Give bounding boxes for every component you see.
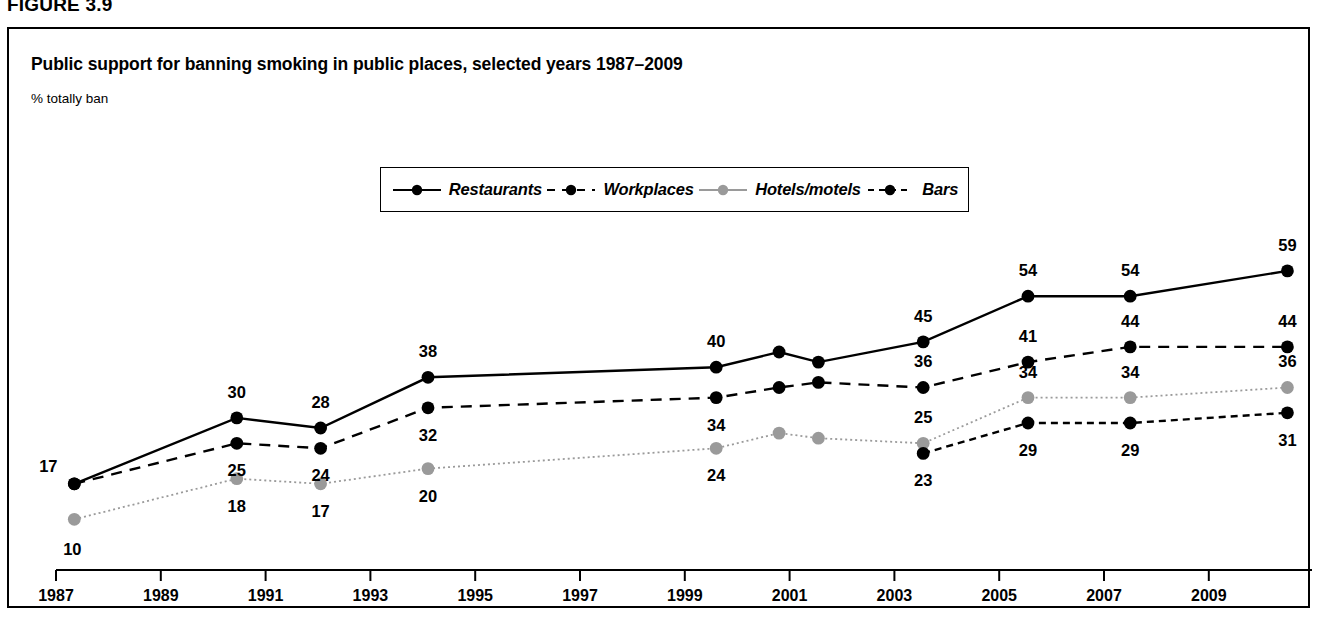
data-point xyxy=(68,477,81,490)
data-point xyxy=(773,381,786,394)
data-point xyxy=(812,432,825,445)
series-line-restaurants xyxy=(74,271,1287,484)
data-label: 17 xyxy=(39,456,57,475)
y-axis-note: % totally ban xyxy=(31,91,108,106)
data-label: 41 xyxy=(1019,327,1037,346)
data-point xyxy=(422,462,435,475)
x-tick-label-2009: 2009 xyxy=(1191,587,1227,605)
series-line-hotels-motels xyxy=(74,388,1287,520)
data-point xyxy=(422,401,435,414)
legend-label-hotels-motels: Hotels/motels xyxy=(755,180,861,199)
data-label: 20 xyxy=(419,486,437,505)
data-point xyxy=(812,356,825,369)
data-label: 24 xyxy=(707,466,725,485)
data-point xyxy=(710,442,723,455)
data-point xyxy=(1281,381,1294,394)
legend-item-workplaces: Workplaces xyxy=(545,180,693,199)
data-point xyxy=(1281,265,1294,278)
legend-item-hotels-motels: Hotels/motels xyxy=(697,180,861,199)
data-point xyxy=(1124,391,1137,404)
data-point xyxy=(1022,290,1035,303)
data-point xyxy=(230,437,243,450)
x-tick-label-1987: 1987 xyxy=(38,587,74,605)
data-point xyxy=(314,422,327,435)
data-label: 44 xyxy=(1278,311,1296,330)
data-point xyxy=(710,391,723,404)
chart-plot-area xyxy=(9,29,1312,610)
data-point xyxy=(917,437,930,450)
x-tick-label-1989: 1989 xyxy=(143,587,179,605)
data-label: 54 xyxy=(1121,261,1139,280)
data-point xyxy=(917,336,930,349)
x-tick-label-1993: 1993 xyxy=(353,587,389,605)
legend-item-restaurants: Restaurants xyxy=(391,180,542,199)
data-label: 36 xyxy=(914,352,932,371)
legend-label-workplaces: Workplaces xyxy=(603,180,693,199)
x-tick-label-1991: 1991 xyxy=(248,587,284,605)
data-point xyxy=(917,381,930,394)
x-tick-label-1995: 1995 xyxy=(457,587,493,605)
data-label: 25 xyxy=(228,461,246,480)
data-point xyxy=(314,442,327,455)
data-label: 32 xyxy=(419,425,437,444)
data-point xyxy=(773,427,786,440)
data-point xyxy=(917,447,930,460)
legend-label-bars: Bars xyxy=(922,180,958,199)
x-tick-label-1997: 1997 xyxy=(562,587,598,605)
data-point xyxy=(1281,406,1294,419)
series-line-workplaces xyxy=(74,347,1287,484)
data-point xyxy=(1124,341,1137,354)
data-label: 34 xyxy=(1121,362,1139,381)
data-label: 23 xyxy=(914,471,932,490)
data-point xyxy=(68,477,81,490)
data-point xyxy=(1124,417,1137,430)
x-tick-label-2005: 2005 xyxy=(981,587,1017,605)
data-label: 34 xyxy=(707,415,725,434)
data-label: 59 xyxy=(1278,235,1296,254)
data-label: 31 xyxy=(1278,430,1296,449)
data-label: 10 xyxy=(63,540,81,559)
data-label: 44 xyxy=(1121,311,1139,330)
data-label: 40 xyxy=(707,332,725,351)
x-tick-label-2003: 2003 xyxy=(877,587,913,605)
data-label: 18 xyxy=(228,496,246,515)
data-label: 24 xyxy=(311,466,329,485)
data-label: 29 xyxy=(1121,440,1139,459)
data-label: 17 xyxy=(311,501,329,520)
data-label: 29 xyxy=(1019,440,1037,459)
chart-panel: Public support for banning smoking in pu… xyxy=(7,27,1310,608)
legend-swatch-workplaces xyxy=(545,183,597,197)
data-label: 45 xyxy=(914,306,932,325)
chart-title: Public support for banning smoking in pu… xyxy=(31,54,683,75)
data-label: 30 xyxy=(228,382,246,401)
data-point xyxy=(422,371,435,384)
data-point xyxy=(710,361,723,374)
data-label: 38 xyxy=(419,342,437,361)
legend-swatch-hotels-motels xyxy=(697,183,749,197)
data-point xyxy=(1022,417,1035,430)
data-label: 54 xyxy=(1019,261,1037,280)
data-label: 28 xyxy=(311,393,329,412)
chart-legend: Restaurants Workplaces Hotels/motels Bar… xyxy=(380,167,969,212)
data-point xyxy=(773,346,786,359)
x-tick-label-2001: 2001 xyxy=(772,587,808,605)
data-label: 34 xyxy=(1019,362,1037,381)
legend-swatch-restaurants xyxy=(391,183,443,197)
x-tick-label-2007: 2007 xyxy=(1086,587,1122,605)
series-line-bars xyxy=(923,413,1287,454)
legend-item-bars: Bars xyxy=(864,180,958,199)
legend-label-restaurants: Restaurants xyxy=(449,180,542,199)
x-tick-label-1999: 1999 xyxy=(667,587,703,605)
legend-swatch-bars xyxy=(864,183,916,197)
data-label: 25 xyxy=(914,408,932,427)
data-point xyxy=(812,376,825,389)
data-label: 36 xyxy=(1278,352,1296,371)
data-point xyxy=(68,513,81,526)
data-point xyxy=(1124,290,1137,303)
data-point xyxy=(230,412,243,425)
data-point xyxy=(1022,391,1035,404)
figure-label: FIGURE 3.9 xyxy=(7,0,112,16)
